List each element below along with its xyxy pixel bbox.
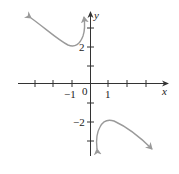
origin-label: 0 [82, 85, 88, 97]
x-tick-label-1: 1 [105, 88, 111, 100]
x-axis-label: x [161, 85, 167, 97]
y-tick-label-neg2: −2 [73, 116, 85, 128]
y-axis-label: y [93, 9, 99, 21]
curve-left-branch [31, 17, 85, 46]
curve-right-branch [97, 120, 152, 149]
x-tick-label-neg1: −1 [64, 88, 76, 100]
graph: y x −1 0 1 2 −2 [0, 0, 179, 174]
